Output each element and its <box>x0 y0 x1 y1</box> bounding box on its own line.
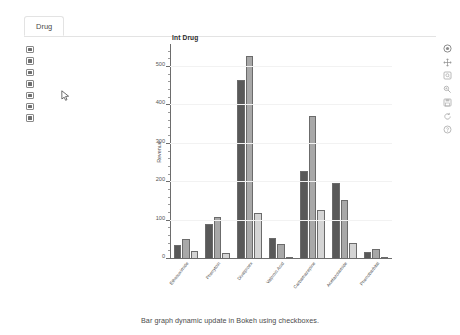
y-axis-minor-tick <box>168 174 171 175</box>
bar-group <box>170 44 202 259</box>
bar[interactable] <box>191 251 199 259</box>
y-axis-tick-label: 400 <box>156 99 165 105</box>
y-axis-minor-tick <box>168 97 171 98</box>
y-axis-tick <box>166 220 170 221</box>
checkbox-row[interactable] <box>26 78 130 89</box>
y-axis-minor-tick <box>168 166 171 167</box>
y-axis-minor-tick <box>168 204 171 205</box>
page-root: Drug Int Drug Revenue 0100200300400500 E… <box>0 0 460 335</box>
checkbox-icon[interactable] <box>26 114 34 122</box>
y-axis-minor-tick <box>168 89 171 90</box>
x-axis-tick-group: Phenobarbital <box>360 259 392 309</box>
checkbox-icon[interactable] <box>26 46 34 54</box>
checkbox-row[interactable] <box>26 55 130 66</box>
x-axis-tick-label: Phenytoin <box>205 261 222 280</box>
x-axis-tick-group: Carbamazepine <box>297 259 329 309</box>
reset-icon[interactable] <box>443 112 452 121</box>
wheel-zoom-icon[interactable] <box>443 85 452 94</box>
bar-group <box>233 44 265 259</box>
y-axis-tick-label: 500 <box>156 61 165 67</box>
x-axis-tick-label: Ethosuximide <box>169 261 190 286</box>
grid-line <box>170 143 392 144</box>
x-axis-tick-group: Ethosuximide <box>170 259 202 309</box>
bar-group <box>202 44 234 259</box>
checkbox-row[interactable] <box>26 90 130 101</box>
grid-line <box>170 104 392 105</box>
y-axis-minor-tick <box>168 112 171 113</box>
y-axis-minor-tick <box>168 120 171 121</box>
bar[interactable] <box>269 238 277 259</box>
checkbox-row[interactable] <box>26 67 130 78</box>
checkbox-icon[interactable] <box>26 103 34 111</box>
bar[interactable] <box>277 244 285 259</box>
y-axis-tick <box>166 143 170 144</box>
figure-caption: Bar graph dynamic update in Bokeh using … <box>0 316 460 325</box>
bar-group <box>265 44 297 259</box>
y-axis-minor-tick <box>168 127 171 128</box>
y-axis-minor-tick <box>168 151 171 152</box>
y-axis-minor-tick <box>168 158 171 159</box>
bar[interactable] <box>246 56 254 259</box>
chart-title: Int Drug <box>172 34 198 41</box>
y-axis-minor-tick <box>168 74 171 75</box>
checkbox-icon[interactable] <box>26 80 34 88</box>
y-axis-minor-tick <box>168 235 171 236</box>
bar-series-container <box>170 44 392 259</box>
y-axis-tick-label: 0 <box>162 253 165 259</box>
bar[interactable] <box>341 200 349 260</box>
y-axis-tick <box>166 104 170 105</box>
bokeh-plot: Int Drug Revenue 0100200300400500 Ethosu… <box>140 34 430 309</box>
y-axis-minor-tick <box>168 58 171 59</box>
x-axis-tick-group: Acetazolamide <box>329 259 361 309</box>
pan-tool-icon[interactable] <box>443 58 452 67</box>
x-axis-tick-label: Divalproex <box>236 261 253 281</box>
y-axis-tick-label: 200 <box>156 176 165 182</box>
grid-line <box>170 220 392 221</box>
y-axis-minor-tick <box>168 212 171 213</box>
bar[interactable] <box>372 249 380 259</box>
x-axis-tick-group: Valproic Acid <box>265 259 297 309</box>
checkbox-row[interactable] <box>26 101 130 112</box>
y-axis-title: Revenue <box>156 141 162 163</box>
x-axis-tick-label: Carbamazepine <box>293 261 317 290</box>
y-axis-minor-tick <box>168 135 171 136</box>
x-axis-tick-label: Phenobarbital <box>359 261 380 286</box>
plot-frame: Revenue 0100200300400500 <box>170 44 392 259</box>
bar-group <box>297 44 329 259</box>
checkbox-row[interactable] <box>26 112 130 123</box>
bar[interactable] <box>332 183 340 259</box>
y-axis-minor-tick <box>168 227 171 228</box>
bar[interactable] <box>300 171 308 259</box>
grid-line <box>170 66 392 67</box>
x-axis-tick-label: Valproic Acid <box>265 261 285 285</box>
x-axis-tick-group: Divalproex <box>233 259 265 309</box>
x-axis-tick-labels: EthosuximidePhenytoinDivalproexValproic … <box>170 259 392 309</box>
checkbox-icon[interactable] <box>26 57 34 65</box>
y-axis-minor-tick <box>168 189 171 190</box>
checkbox-icon[interactable] <box>26 69 34 77</box>
bar[interactable] <box>182 239 190 259</box>
checkbox-row[interactable] <box>26 44 130 55</box>
bar[interactable] <box>174 245 182 259</box>
y-axis-tick-label: 300 <box>156 138 165 144</box>
x-axis-tick-label: Acetazolamide <box>326 261 348 288</box>
checkbox-icon[interactable] <box>26 92 34 100</box>
bar[interactable] <box>317 210 325 259</box>
bar[interactable] <box>205 224 213 259</box>
y-axis-tick <box>166 181 170 182</box>
drug-checkbox-group <box>26 44 130 124</box>
x-axis-tick-group: Phenytoin <box>202 259 234 309</box>
bokeh-toolbar <box>440 44 454 134</box>
bar-group <box>329 44 361 259</box>
bar[interactable] <box>349 243 357 260</box>
y-axis-minor-tick <box>168 81 171 82</box>
box-zoom-icon[interactable] <box>443 71 452 80</box>
bar[interactable] <box>214 217 222 259</box>
bar[interactable] <box>237 80 245 259</box>
y-axis-tick <box>166 66 170 67</box>
help-icon[interactable] <box>443 125 452 134</box>
tab-drug[interactable]: Drug <box>24 16 64 36</box>
save-icon[interactable] <box>443 98 452 107</box>
y-axis-tick-label: 100 <box>156 215 165 221</box>
bar[interactable] <box>309 116 317 259</box>
